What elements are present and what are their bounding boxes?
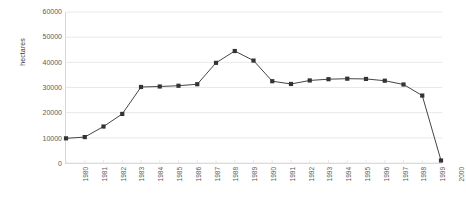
y-tick-label: 0 (26, 160, 62, 168)
y-axis-tick-labels: 0100002000030000400005000060000 (26, 0, 62, 204)
series-line (66, 51, 441, 160)
x-tick-label: 1980 (82, 167, 90, 201)
y-tick-label: 30000 (26, 84, 62, 92)
x-tick-label: 1995 (364, 167, 372, 201)
data-point-marker (64, 136, 68, 140)
x-tick-label: 1986 (195, 167, 203, 201)
data-point-marker (233, 49, 237, 53)
x-tick-label: 1996 (383, 167, 391, 201)
data-point-marker (420, 93, 424, 97)
x-tick-label: 1981 (101, 167, 109, 201)
x-tick-label: 1985 (176, 167, 184, 201)
y-tick-label: 10000 (26, 135, 62, 143)
data-point-marker (120, 112, 124, 116)
y-tick-label: 60000 (26, 8, 62, 16)
x-tick-label: 1992 (308, 167, 316, 201)
x-tick-label: 2000 (458, 167, 466, 201)
y-tick-label: 50000 (26, 33, 62, 41)
data-series-hectares (66, 12, 442, 163)
x-tick-label: 1983 (138, 167, 146, 201)
data-point-marker (326, 77, 330, 81)
y-tick-label: 40000 (26, 59, 62, 67)
x-tick-label: 1994 (345, 167, 353, 201)
data-point-marker (158, 84, 162, 88)
data-point-marker (401, 82, 405, 86)
data-point-marker (439, 158, 443, 162)
x-tick-label: 1987 (214, 167, 222, 201)
x-tick-label: 1998 (420, 167, 428, 201)
data-point-marker (345, 77, 349, 81)
data-point-marker (101, 124, 105, 128)
x-tick-label: 1991 (289, 167, 297, 201)
plot-area (65, 12, 442, 164)
x-tick-label: 1982 (120, 167, 128, 201)
x-tick-label: 1988 (232, 167, 240, 201)
data-point-marker (176, 84, 180, 88)
x-tick-label: 1999 (439, 167, 447, 201)
x-axis-tick-labels: 1980198119821983198419851986198719881989… (65, 164, 442, 204)
data-point-marker (195, 82, 199, 86)
data-point-marker (308, 78, 312, 82)
data-point-marker (139, 85, 143, 89)
x-tick-label: 1990 (270, 167, 278, 201)
x-tick-label: 1989 (251, 167, 259, 201)
x-tick-label: 1993 (326, 167, 334, 201)
data-point-marker (251, 58, 255, 62)
data-point-marker (214, 61, 218, 65)
data-point-marker (83, 135, 87, 139)
data-point-marker (364, 77, 368, 81)
data-point-marker (270, 79, 274, 83)
x-tick-label: 1997 (402, 167, 410, 201)
y-tick-label: 20000 (26, 109, 62, 117)
data-point-marker (289, 82, 293, 86)
x-tick-label: 1984 (157, 167, 165, 201)
data-point-marker (383, 79, 387, 83)
